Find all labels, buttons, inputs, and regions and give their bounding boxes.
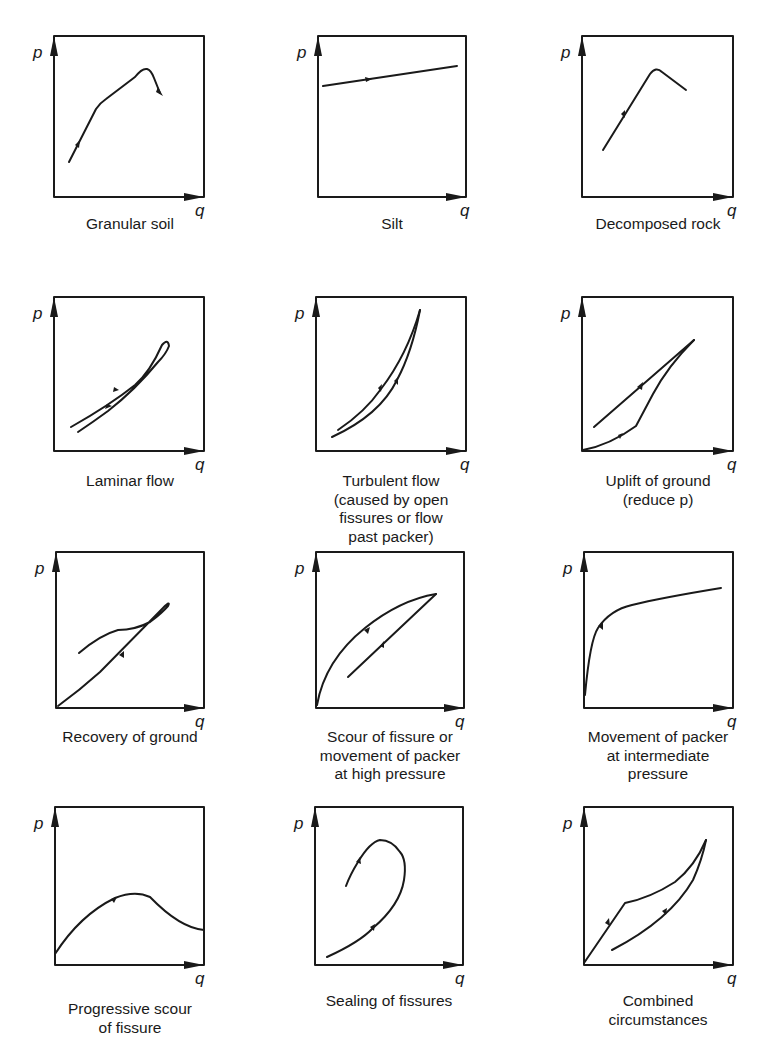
plot-frame [582,36,733,197]
plot-frame [55,807,204,965]
curve [55,894,204,954]
panel-laminar-flow [54,297,204,451]
flow-arrow-icon [156,87,163,96]
curve-unloading [348,594,436,677]
caption-progressive-scour: Progressive scour of fissure [10,1000,250,1037]
caption-granular-soil: Granular soil [10,215,250,234]
caption-line: Combined [538,992,775,1011]
curve [585,588,721,695]
x-axis-label: q [195,969,205,988]
plot-frame [54,36,204,197]
curve [69,69,160,162]
plot-frame [318,36,466,197]
x-axis-label: q [727,969,737,988]
caption-silt: Silt [272,215,512,234]
curve-loading [584,840,706,963]
caption-line: at intermediate [538,747,775,766]
y-axis-arrow-icon [311,807,319,827]
caption-line: at high pressure [270,765,510,784]
curve-unloading [594,340,694,427]
y-axis-label: p [294,559,304,578]
curve-loading [332,310,420,437]
panel-uplift-of-ground [582,297,733,451]
y-axis-label: p [560,304,570,323]
caption-combined-circumstances: Combined circumstances [538,992,775,1029]
flow-arrow-icon [365,77,372,82]
y-axis-label: p [293,814,303,833]
curve [58,603,169,706]
y-axis-arrow-icon [578,36,586,56]
y-axis-label: p [560,43,570,62]
caption-line: Progressive scour [10,1000,250,1019]
caption-line: Laminar flow [10,472,250,491]
panel-turbulent-flow [316,297,466,451]
plot-frame [584,807,733,965]
caption-line: Sealing of fissures [269,992,509,1011]
panel-granular-soil [54,36,204,197]
panel-scour-of-fissure [316,552,464,708]
x-axis-arrow-icon [184,961,204,969]
y-axis-arrow-icon [50,36,58,56]
y-axis-label: p [562,814,572,833]
curve-unloading [338,310,420,430]
panel-sealing-of-fissures [315,807,463,965]
curve [327,840,405,957]
caption-line: circumstances [538,1011,775,1030]
y-axis-label: p [32,304,42,323]
plot-frame [582,297,733,451]
x-axis-arrow-icon [184,704,204,712]
caption-line: pressure [538,765,775,784]
caption-scour-of-fissure: Scour of fissure or movement of packer a… [270,728,510,784]
y-axis-label: p [34,559,44,578]
y-axis-arrow-icon [580,552,588,572]
caption-movement-of-packer: Movement of packer at intermediate press… [538,728,775,784]
caption-line: Silt [272,215,512,234]
y-axis-label: p [296,43,306,62]
caption-line: fissures or flow [271,509,511,528]
y-axis-arrow-icon [580,807,588,827]
panel-decomposed-rock [582,36,733,197]
y-axis-arrow-icon [51,807,59,827]
curve [603,69,686,150]
caption-line: (reduce p) [538,491,775,510]
x-axis-arrow-icon [446,193,466,201]
caption-line: of fissure [10,1019,250,1038]
plot-frame [315,807,463,965]
flow-arrow-icon [113,387,119,392]
x-axis-arrow-icon [184,447,204,455]
y-axis-label: p [32,43,42,62]
caption-line: Turbulent flow [271,472,511,491]
y-axis-label: p [562,559,572,578]
plot-frame [56,552,204,708]
curve-loading [583,340,694,450]
caption-laminar-flow: Laminar flow [10,472,250,491]
curve-loading [71,342,169,432]
x-axis-arrow-icon [713,193,733,201]
caption-line: Granular soil [10,215,250,234]
curve-unloading [612,840,706,950]
panel-movement-of-packer [584,552,733,708]
x-axis-arrow-icon [444,704,464,712]
y-axis-arrow-icon [314,36,322,56]
caption-line: (caused by open [271,491,511,510]
caption-decomposed-rock: Decomposed rock [538,215,775,234]
x-axis-arrow-icon [713,961,733,969]
caption-line: past packer) [271,528,511,547]
caption-uplift-of-ground: Uplift of ground (reduce p) [538,472,775,509]
caption-line: Movement of packer [538,728,775,747]
plot-frame [54,297,204,451]
panel-progressive-scour [55,807,204,965]
caption-sealing-of-fissures: Sealing of fissures [269,992,509,1011]
caption-line: Decomposed rock [538,215,775,234]
y-axis-arrow-icon [312,552,320,572]
x-axis-label: q [455,969,465,988]
caption-recovery-of-ground: Recovery of ground [10,728,250,747]
plot-frame [584,552,733,708]
x-axis-arrow-icon [713,704,733,712]
x-axis-arrow-icon [446,447,466,455]
caption-line: Scour of fissure or [270,728,510,747]
panel-combined-circumstances [584,807,733,965]
y-axis-arrow-icon [312,297,320,317]
caption-line: Recovery of ground [10,728,250,747]
caption-line: Uplift of ground [538,472,775,491]
